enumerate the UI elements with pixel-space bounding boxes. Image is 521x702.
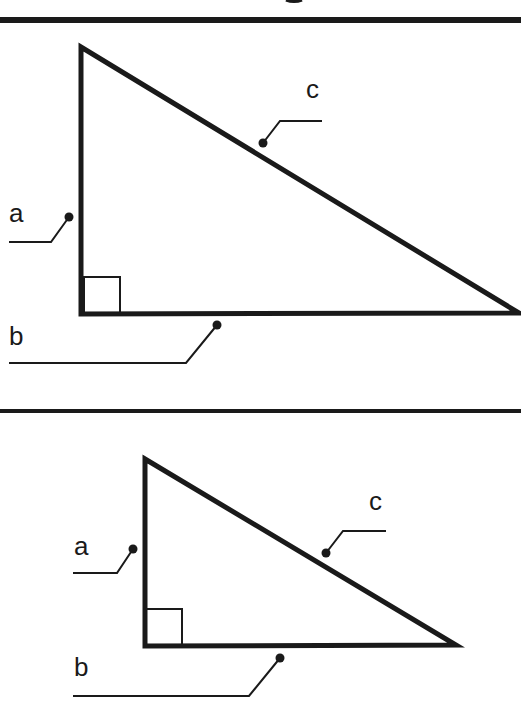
- leader-dot-a: [129, 545, 138, 554]
- label-a: a: [73, 531, 138, 573]
- leader-dot-b: [213, 321, 222, 330]
- label-b: b: [9, 321, 222, 364]
- right-triangle-large: a b c: [9, 47, 519, 363]
- label-c: c: [259, 74, 323, 148]
- triangle-outline: [81, 47, 519, 314]
- side-c-label: c: [306, 74, 319, 104]
- right-triangle-small: a b c: [73, 459, 456, 696]
- leader-line-c: [263, 121, 322, 143]
- leader-line-b: [9, 325, 217, 363]
- leader-line-c: [326, 531, 386, 553]
- partial-heading-glyph: [286, 0, 302, 2]
- leader-dot-c: [259, 139, 268, 148]
- side-b-label: b: [9, 321, 23, 351]
- label-c: c: [322, 486, 387, 558]
- leader-dot-a: [65, 213, 74, 222]
- label-b: b: [73, 652, 285, 696]
- label-a: a: [9, 198, 74, 242]
- triangle-outline: [145, 459, 456, 646]
- right-angle-marker: [146, 609, 182, 645]
- side-c-label: c: [369, 486, 382, 516]
- side-a-label: a: [9, 198, 24, 228]
- leader-dot-b: [276, 654, 285, 663]
- leader-dot-c: [322, 549, 331, 558]
- side-b-label: b: [74, 652, 88, 682]
- triangle-diagram-canvas: a b c a b c: [0, 0, 521, 702]
- leader-line-b: [73, 658, 280, 696]
- side-a-label: a: [74, 531, 89, 561]
- right-angle-marker: [84, 277, 120, 313]
